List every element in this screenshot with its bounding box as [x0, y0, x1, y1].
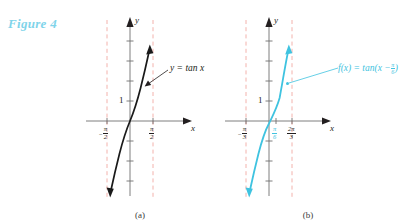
curve-label-b-frac-den: 6	[391, 69, 395, 75]
figure-root: Figure 4	[0, 0, 418, 224]
curve-label-b-frac: π 6	[391, 62, 395, 76]
curve-label-leader-b	[289, 68, 338, 83]
x-axis-label-a: x	[191, 124, 195, 133]
tick-frac-b-left: π 3	[242, 126, 247, 141]
curve-label-leader-dot-b	[286, 82, 289, 85]
x-tick-label-neg-pi-over-3: − π 3	[238, 124, 247, 141]
x-axis-label-b: x	[330, 124, 334, 133]
y-axis-label-a: y	[135, 16, 139, 25]
x-tick-label-neg-pi-over-2: − π 2	[99, 124, 108, 141]
tick-frac-a-right: π 2	[149, 126, 154, 141]
curve-arrowhead-top-a	[146, 45, 153, 55]
curve-arrowhead-bottom-a	[107, 188, 114, 198]
y-unit-label-b: 1	[258, 96, 263, 105]
curve-label-b: f(x) = tan(x − π 6 )	[338, 62, 398, 76]
x-tick-label-pi-over-6: π 6	[272, 124, 277, 141]
panel-b: y x 1 − π 3 π 6 2π 3 f(x) =	[213, 0, 403, 224]
tick-frac-den-b-mid: 6	[272, 134, 277, 141]
panel-caption-b: (b)	[213, 210, 403, 220]
y-axis-label-b: y	[274, 16, 278, 25]
panel-a: y x 1 − π 2 π 2 y = tan x (a)	[45, 0, 235, 224]
tick-frac-den-a-left: 2	[103, 134, 108, 141]
curve-label-a: y = tan x	[170, 64, 204, 74]
curve-label-b-close: )	[395, 63, 398, 73]
curve-label-leader-a	[148, 70, 168, 84]
panel-caption-a: (a)	[45, 210, 235, 220]
tick-frac-a-left: π 2	[103, 126, 108, 141]
curve-label-b-lead: f(x) = tan	[338, 63, 374, 73]
y-unit-label-a: 1	[119, 96, 124, 105]
x-tick-label-pi-over-2: π 2	[149, 124, 154, 141]
tick-frac-den-b-left: 3	[242, 134, 247, 141]
graph-a-svg	[45, 0, 235, 224]
tick-frac-den-a-right: 2	[149, 134, 154, 141]
graph-b-svg	[213, 0, 403, 224]
tick-frac-b-mid: π 6	[272, 126, 277, 141]
y-axis-arrowhead-b	[265, 17, 272, 27]
x-tick-label-two-pi-over-3: 2π 3	[287, 124, 296, 141]
y-axis-arrowhead-a	[126, 17, 133, 27]
curve-label-b-frac-num: π	[391, 62, 395, 69]
tick-frac-b-right: 2π 3	[287, 126, 296, 141]
curve-label-b-arg: x −	[378, 63, 391, 73]
tick-frac-den-b-right: 3	[287, 134, 296, 141]
curve-arrowhead-bottom-b	[246, 188, 253, 198]
curve-label-leader-arrowhead-a	[145, 81, 152, 87]
curve-arrowhead-top-b	[285, 45, 292, 55]
